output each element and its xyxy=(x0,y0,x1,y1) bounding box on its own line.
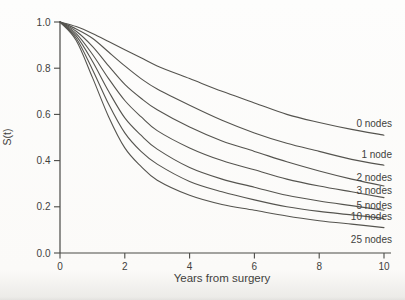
x-tick-label: 6 xyxy=(252,261,258,272)
series-label-1-node: 1 node xyxy=(361,149,392,160)
y-axis-title: S(t) xyxy=(1,87,13,187)
x-tick-label: 2 xyxy=(122,261,128,272)
series-label-3-nodes: 3 nodes xyxy=(356,185,392,196)
series-label-25-nodes: 25 nodes xyxy=(351,234,392,245)
series-label-10-nodes: 10 nodes xyxy=(351,211,392,222)
y-tick-label: 0.2 xyxy=(37,201,51,212)
survival-chart-canvas: 02468100.00.20.40.60.81.00 nodes1 node2 … xyxy=(0,0,405,300)
x-axis-title: Years from surgery xyxy=(60,272,384,284)
y-tick-label: 0.4 xyxy=(37,155,51,166)
series-label-0-nodes: 0 nodes xyxy=(356,118,392,129)
y-tick-label: 0.8 xyxy=(37,63,51,74)
x-tick-label: 0 xyxy=(57,261,63,272)
axes-lines xyxy=(60,22,391,253)
curve-1-node xyxy=(60,22,384,165)
survival-chart-figure: 02468100.00.20.40.60.81.00 nodes1 node2 … xyxy=(0,0,405,300)
series-label-2-nodes: 2 nodes xyxy=(356,172,392,183)
y-tick-label: 0.0 xyxy=(37,248,51,259)
curve-25-nodes xyxy=(60,22,384,228)
series-label-5-nodes: 5 nodes xyxy=(356,200,392,211)
x-tick-label: 8 xyxy=(316,261,322,272)
y-tick-label: 0.6 xyxy=(37,109,51,120)
y-tick-label: 1.0 xyxy=(37,17,51,28)
curve-3-nodes xyxy=(60,22,384,198)
x-tick-label: 4 xyxy=(187,261,193,272)
x-tick-label: 10 xyxy=(378,261,390,272)
